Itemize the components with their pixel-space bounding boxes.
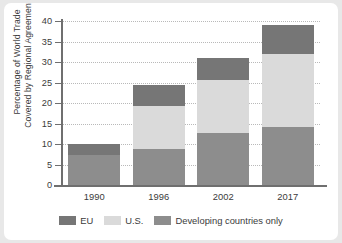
bar-group[interactable] <box>262 21 314 185</box>
bar-segment[interactable] <box>133 106 185 149</box>
y-axis-tick-label: 0 <box>10 180 52 190</box>
x-axis-tick-label: 2002 <box>191 191 256 202</box>
legend-label: Developing countries only <box>175 215 282 226</box>
legend-entry[interactable]: EU <box>59 215 93 226</box>
bar-segment[interactable] <box>197 133 249 185</box>
bar-segment[interactable] <box>197 80 249 134</box>
bar-segment[interactable] <box>262 54 314 127</box>
y-axis-tick-label: 20 <box>10 98 52 108</box>
bar-segment[interactable] <box>68 155 120 185</box>
bar-group[interactable] <box>133 21 185 185</box>
chart-figure-panel: Percentage of World Trade Covered by Reg… <box>4 3 338 240</box>
bar-segment[interactable] <box>133 149 185 185</box>
bar-group[interactable] <box>197 21 249 185</box>
bar-segment[interactable] <box>68 144 120 156</box>
y-axis-tick-labels: 0510152025303540 <box>4 21 52 185</box>
legend-entry[interactable]: U.S. <box>104 215 143 226</box>
x-axis-tick-label: 1996 <box>127 191 192 202</box>
plot-area <box>62 21 320 185</box>
bar-segment[interactable] <box>197 58 249 80</box>
legend-swatch <box>104 216 121 225</box>
y-axis-tick-label: 15 <box>10 119 52 129</box>
legend-label: U.S. <box>125 215 143 226</box>
legend-swatch <box>59 216 76 225</box>
bar-segment[interactable] <box>262 127 314 185</box>
x-axis-tick-labels: 1990199620022017 <box>62 191 320 205</box>
y-axis-tick-label: 10 <box>10 139 52 149</box>
x-axis-line <box>54 185 327 187</box>
y-axis-tick-label: 5 <box>10 160 52 170</box>
bar-group[interactable] <box>68 21 120 185</box>
legend-swatch <box>154 216 171 225</box>
y-axis-tick-label: 40 <box>10 16 52 26</box>
legend-entry[interactable]: Developing countries only <box>154 215 282 226</box>
chart-legend: EUU.S.Developing countries only <box>4 215 338 226</box>
y-axis-tick-label: 25 <box>10 78 52 88</box>
y-axis-tick-label: 30 <box>10 57 52 67</box>
y-axis-line <box>61 19 63 187</box>
x-axis-tick-label: 2017 <box>256 191 321 202</box>
y-axis-tick-label: 35 <box>10 37 52 47</box>
x-axis-tick-label: 1990 <box>62 191 127 202</box>
legend-label: EU <box>80 215 93 226</box>
bar-segment[interactable] <box>262 25 314 54</box>
bar-segment[interactable] <box>133 85 185 106</box>
